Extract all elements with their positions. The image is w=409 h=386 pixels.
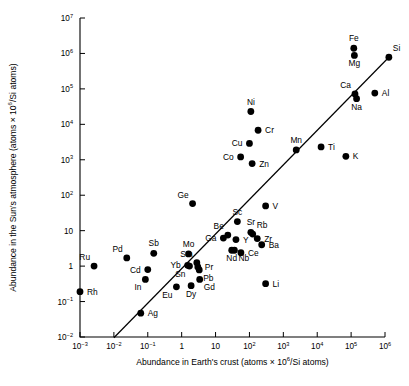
y-axis-tick-label: 106: [61, 48, 73, 58]
data-point-label-cd: Cd: [130, 265, 141, 275]
data-point-k[interactable]: [342, 153, 349, 160]
data-point-pb[interactable]: [196, 267, 203, 274]
data-point-sn[interactable]: [186, 263, 193, 270]
data-point-sb[interactable]: [150, 250, 157, 257]
data-point-rh[interactable]: [77, 288, 84, 295]
data-point-cd[interactable]: [144, 266, 151, 273]
y-axis-tick-label: 10: [64, 227, 74, 236]
x-axis-tick-label: 1: [179, 342, 184, 351]
data-point-label-ru: Ru: [79, 252, 90, 262]
data-point-co[interactable]: [237, 154, 244, 161]
scatter-plot-svg: 10710610510410310210110−110−210−310−210−…: [0, 0, 409, 386]
data-point-label-nd: Nd: [226, 253, 237, 263]
y-axis-tick-label: 1: [68, 262, 73, 271]
data-point-y[interactable]: [233, 236, 240, 243]
y-axis-tick-label: 105: [61, 83, 73, 93]
data-point-label-co: Co: [223, 152, 234, 162]
data-point-label-fe: Fe: [349, 33, 359, 43]
data-point-label-ni: Ni: [247, 97, 255, 107]
data-point-be[interactable]: [224, 232, 231, 239]
data-point-gd[interactable]: [196, 276, 203, 283]
data-point-label-si: Si: [393, 43, 401, 53]
plot-axes: [80, 18, 385, 337]
data-point-nb[interactable]: [231, 247, 238, 254]
data-point-label-al: Al: [382, 88, 390, 98]
data-point-ti[interactable]: [318, 144, 325, 151]
data-point-label-ba: Ba: [269, 240, 280, 250]
data-point-label-sn: Sn: [175, 269, 186, 279]
data-point-label-in: In: [134, 282, 141, 292]
x-axis-tick-label: 10−1: [140, 341, 156, 351]
x-axis-tick-label: 10−2: [106, 341, 122, 351]
data-point-ru[interactable]: [91, 263, 98, 270]
y-axis-tick-label: 10−1: [58, 296, 74, 306]
data-point-mn[interactable]: [293, 146, 300, 153]
data-point-label-rb: Rb: [257, 220, 268, 230]
data-point-label-mo: Mo: [183, 239, 195, 249]
x-axis-tick-label: 103: [277, 341, 289, 351]
data-point-label-pb: Pb: [203, 273, 214, 283]
data-point-v[interactable]: [262, 202, 269, 209]
data-point-eu[interactable]: [173, 283, 180, 290]
data-point-label-v: V: [273, 201, 279, 211]
data-point-label-be: Be: [214, 221, 225, 231]
data-point-label-ce: Ce: [248, 248, 259, 258]
y-axis-tick-label: 107: [61, 13, 73, 23]
data-point-label-k: K: [353, 151, 359, 161]
x-axis-tick-label: 106: [379, 341, 391, 351]
data-point-cu[interactable]: [246, 140, 253, 147]
data-point-ce[interactable]: [238, 249, 245, 256]
data-point-in[interactable]: [142, 276, 149, 283]
data-point-label-sr: Sr: [247, 217, 256, 227]
data-point-sc[interactable]: [234, 218, 241, 225]
data-point-label-cu: Cu: [232, 138, 243, 148]
data-point-zr[interactable]: [254, 235, 261, 242]
data-point-label-mn: Mn: [290, 135, 302, 145]
data-point-label-li: Li: [273, 279, 280, 289]
abundance-scatter-figure: 10710610510410310210110−110−210−310−210−…: [0, 0, 409, 386]
data-point-label-pd: Pd: [113, 244, 124, 254]
data-point-label-sm: Sm: [180, 249, 193, 259]
data-point-label-ag: Ag: [148, 308, 159, 318]
data-point-ge[interactable]: [189, 200, 196, 207]
y-axis-tick-label: 102: [61, 190, 73, 200]
x-axis-tick-label: 104: [311, 341, 323, 351]
data-point-al[interactable]: [371, 90, 378, 97]
data-point-si[interactable]: [385, 54, 392, 61]
data-point-label-dy: Dy: [186, 289, 197, 299]
data-point-label-sb: Sb: [149, 238, 160, 248]
x-axis-tick-label: 102: [243, 341, 255, 351]
data-point-label-ti: Ti: [328, 142, 335, 152]
data-point-label-mg: Mg: [349, 58, 361, 68]
data-point-label-zn: Zn: [259, 159, 269, 169]
data-point-label-cr: Cr: [265, 125, 274, 135]
x-axis-tick-label: 105: [345, 341, 357, 351]
x-axis-tick-label: 10−3: [72, 341, 88, 351]
x-axis-title: Abundance in Earth's crust (atoms × 106/…: [136, 356, 329, 367]
data-point-pd[interactable]: [123, 255, 130, 262]
data-point-cr[interactable]: [255, 127, 262, 134]
y-axis-tick-label: 104: [61, 119, 73, 129]
data-point-label-eu: Eu: [162, 290, 173, 300]
data-point-ag[interactable]: [137, 310, 144, 317]
data-point-label-ca: Ca: [340, 80, 351, 90]
data-point-label-gd: Gd: [204, 282, 216, 292]
y-axis-tick-label: 10−2: [58, 332, 74, 342]
data-point-ba[interactable]: [258, 241, 265, 248]
y-axis-title: Abundance in the Sun's atmosphere (atoms…: [7, 63, 18, 291]
data-point-li[interactable]: [262, 280, 269, 287]
data-point-label-sc: Sc: [232, 207, 242, 217]
data-point-label-pr: Pr: [205, 262, 214, 272]
y-axis-tick-label: 103: [61, 154, 73, 164]
data-point-label-ga: Ga: [205, 233, 217, 243]
data-point-zn[interactable]: [249, 160, 256, 167]
data-point-label-rh: Rh: [87, 287, 98, 297]
data-point-fe[interactable]: [350, 45, 357, 52]
data-point-label-y: Y: [243, 235, 249, 245]
data-point-label-na: Na: [351, 102, 362, 112]
data-point-sm[interactable]: [193, 259, 200, 266]
data-point-label-ge: Ge: [177, 190, 189, 200]
data-point-ni[interactable]: [247, 108, 254, 115]
x-axis-tick-label: 10: [211, 342, 221, 351]
